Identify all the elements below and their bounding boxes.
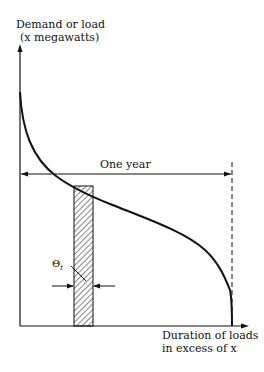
- hatched-interval-bar: [74, 186, 93, 326]
- x-axis-arrow-icon: [241, 324, 249, 329]
- diagram-canvas: [0, 0, 264, 372]
- interval-left-arrow-icon: [67, 284, 74, 289]
- load-duration-curve: [20, 92, 232, 326]
- y-axis-arrow-icon: [18, 44, 23, 52]
- span-left-arrow-icon: [21, 172, 28, 177]
- interval-right-arrow-icon: [93, 284, 100, 289]
- span-right-arrow-icon: [224, 172, 231, 177]
